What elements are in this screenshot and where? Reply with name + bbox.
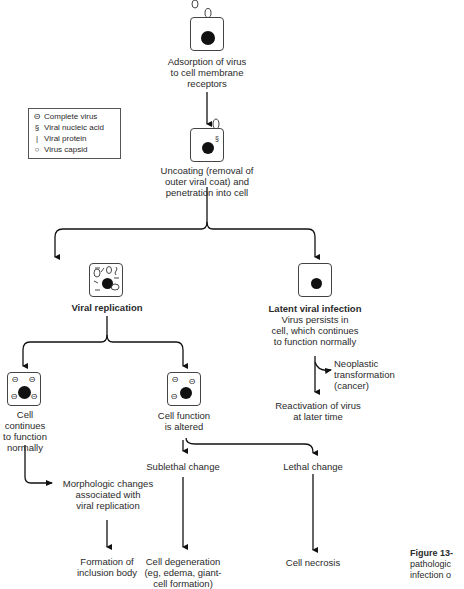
node-morphologic: Morphologic changes associated with vira… [58, 478, 158, 511]
legend-item-complete-virus: Θ Complete virus [33, 112, 97, 122]
cell-latent [298, 263, 332, 297]
figure-caption: Figure 13- pathologic infection o [410, 548, 453, 581]
nucleus-icon [180, 387, 192, 399]
node-sublethal: Sublethal change [140, 461, 226, 472]
node-neoplastic: Neoplastic transformation (cancer) [334, 358, 412, 391]
complete-virus-icon: Θ [11, 392, 17, 401]
node-necrosis: Cell necrosis [278, 557, 348, 568]
viral-nucleic-acid-icon: § [215, 135, 219, 142]
cell-altered: Θ Θ Θ [167, 372, 201, 406]
complete-virus-icon: Θ [171, 392, 177, 401]
node-latent-desc: Virus persists in cell, which continues … [258, 314, 372, 347]
nucleus-icon [201, 31, 215, 45]
node-adsorption: Adsorption of virus to cell membrane rec… [150, 56, 264, 89]
viral-protein-icon: | [33, 134, 41, 144]
complete-virus-icon: Θ [33, 112, 41, 122]
node-viral-replication: Viral replication [60, 302, 154, 313]
nucleus-icon [202, 142, 214, 154]
nucleus-icon [18, 386, 31, 399]
legend-item-viral-nucleic-acid: § Viral nucleic acid [33, 123, 104, 133]
node-cell-continues: Cell continues to function normally [0, 409, 50, 453]
legend: Θ Complete virus § Viral nucleic acid | … [28, 108, 121, 159]
cell-continues: Θ Θ Θ Θ [7, 372, 41, 406]
complete-virus-icon: Θ [172, 375, 178, 384]
cell-viral-replication [89, 263, 123, 297]
complete-virus-icon: Θ [12, 375, 18, 384]
complete-virus-icon: Θ [189, 377, 195, 386]
legend-item-virus-capsid: ○ Virus capsid [33, 145, 87, 155]
node-lethal: Lethal change [280, 461, 346, 472]
node-cell-altered: Cell function is altered [145, 410, 223, 432]
node-inclusion-body: Formation of inclusion body [70, 556, 144, 578]
legend-item-viral-protein: | Viral protein [33, 134, 87, 144]
node-latent-title: Latent viral infection [255, 303, 375, 314]
complete-virus-icon: Θ [31, 392, 37, 401]
node-reactivation: Reactivation of virus at later time [265, 400, 371, 422]
nucleus-icon [311, 278, 322, 289]
viral-components-icon [90, 264, 122, 296]
caption-label: Figure 13- [410, 548, 453, 558]
node-degeneration: Cell degeneration (eg, edema, giant- cel… [138, 556, 228, 589]
viral-nucleic-acid-icon: § [33, 123, 41, 133]
virus-capsid-icon: ○ [33, 145, 41, 155]
node-uncoating: Uncoating (removal of outer viral coat) … [148, 165, 266, 198]
cell-adsorption [190, 17, 224, 51]
complete-virus-icon: Θ [29, 375, 35, 384]
cell-uncoating: § [190, 128, 224, 162]
